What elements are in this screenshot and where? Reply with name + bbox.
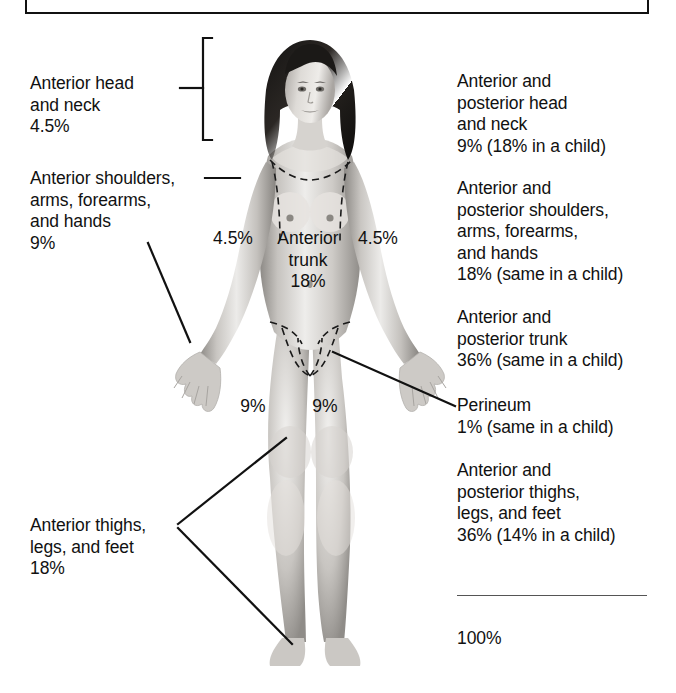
label-perineum: Perineum 1% (same in a child) (457, 395, 614, 438)
total-percent: 100% (457, 628, 501, 650)
label-anterior-posterior-trunk: Anterior and posterior trunk 36% (same i… (457, 307, 623, 372)
label-anterior-thighs-legs-feet: Anterior thighs, legs, and feet 18% (30, 515, 146, 580)
onbody-right-arm-percent: 4.5% (350, 228, 406, 250)
onbody-left-thigh-percent: 9% (231, 396, 275, 418)
caption-frame (25, 0, 649, 14)
female-body-illustration (150, 26, 470, 666)
total-divider-rule (457, 595, 647, 596)
onbody-right-thigh-percent: 9% (303, 396, 347, 418)
label-anterior-posterior-shoulders-arms-forearms-hands: Anterior and posterior shoulders, arms, … (457, 178, 623, 286)
burn-rule-of-nines-figure: Anterior head and neck 4.5% Anterior sho… (0, 0, 676, 693)
onbody-left-arm-percent: 4.5% (205, 228, 261, 250)
onbody-anterior-trunk: Anterior trunk 18% (262, 228, 354, 293)
label-anterior-head-and-neck: Anterior head and neck 4.5% (30, 73, 134, 138)
label-anterior-shoulders-arms-forearms-hands: Anterior shoulders, arms, forearms, and … (30, 168, 175, 254)
label-anterior-posterior-thighs-legs-feet: Anterior and posterior thighs, legs, and… (457, 460, 616, 546)
label-anterior-posterior-head-and-neck: Anterior and posterior head and neck 9% … (457, 71, 606, 157)
